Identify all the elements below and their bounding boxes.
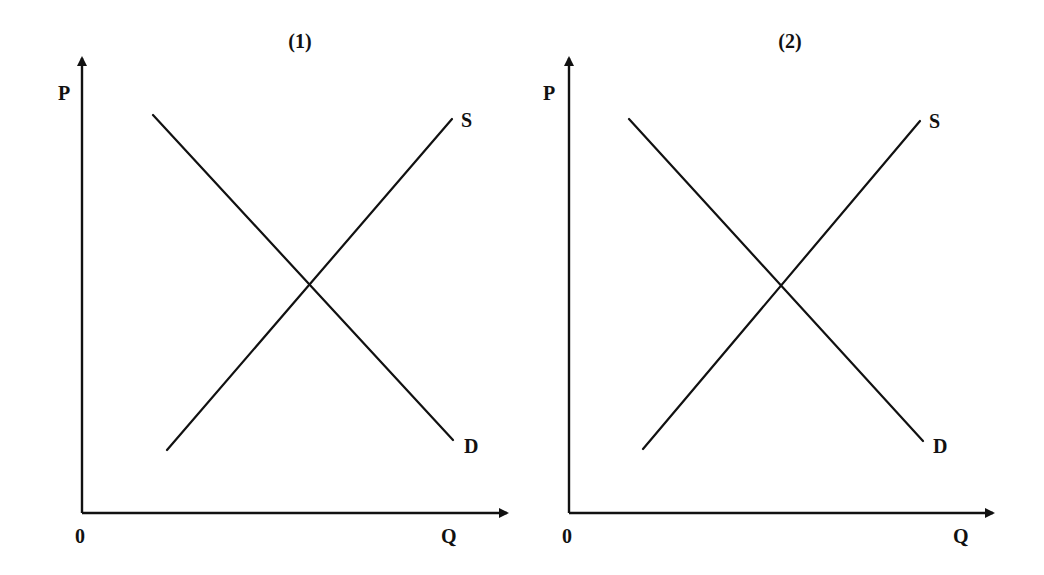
panel-2-origin-label: 0 xyxy=(562,525,572,547)
panel-2: (2) P 0 Q D S xyxy=(543,30,993,547)
panel-2-price-axis-label: P xyxy=(543,82,555,104)
panel-1-quantity-axis-label: Q xyxy=(441,525,457,547)
panel-1-origin-label: 0 xyxy=(75,525,85,547)
panel-2-demand-curve xyxy=(629,119,923,441)
supply-demand-figure: (1) P 0 Q D S (2) P 0 Q D S xyxy=(0,0,1044,575)
panel-2-title: (2) xyxy=(778,30,801,53)
panel-2-quantity-axis-label: Q xyxy=(953,525,969,547)
panel-2-supply-curve xyxy=(643,121,920,449)
panel-1-supply-label: S xyxy=(461,109,472,131)
panel-1-demand-curve xyxy=(153,115,453,440)
panel-1-price-axis-label: P xyxy=(58,82,70,104)
panel-2-supply-label: S xyxy=(929,110,940,132)
panel-2-demand-label: D xyxy=(933,435,947,457)
panel-1-supply-curve xyxy=(167,119,452,450)
panel-1-demand-label: D xyxy=(464,435,478,457)
panel-1: (1) P 0 Q D S xyxy=(58,30,507,547)
panel-1-title: (1) xyxy=(288,30,311,53)
